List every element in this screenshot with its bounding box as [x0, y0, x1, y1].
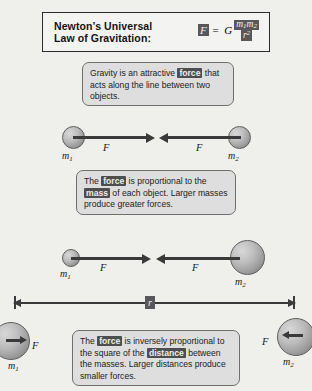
header-box: Newton’s Universal Law of Gravitation: F… — [42, 12, 270, 52]
mass-term-mass: mass — [84, 188, 110, 198]
formula-force-symbol: F — [198, 24, 209, 36]
force-label-left-equal: F — [103, 142, 109, 153]
attraction-term-force: force — [177, 68, 202, 78]
force-label-right-distance: F — [262, 336, 268, 347]
mass2-label-unequal: m2 — [235, 276, 246, 289]
force-label-right-unequal: F — [192, 262, 198, 273]
formula-constant: G — [224, 24, 232, 36]
statement-mass: The force is proportional to the mass of… — [76, 170, 236, 215]
mass-term-force: force — [101, 176, 126, 186]
gravitation-formula: F = G m1m2 r2 — [198, 20, 259, 41]
formula-m2-sub: 2 — [253, 22, 257, 30]
formula-denominator: r2 — [241, 30, 252, 41]
distance-term-distance: distance — [147, 348, 186, 358]
mass1-label-unequal: m1 — [60, 268, 71, 281]
mass2-label-equal: m2 — [228, 150, 239, 163]
page-title: Newton’s Universal Law of Gravitation: — [54, 20, 152, 45]
formula-r-sup: 2 — [247, 29, 251, 37]
force-arrow-left-unequal — [163, 257, 240, 260]
force-label-left-distance: F — [32, 340, 38, 351]
force-arrow-left-distance — [288, 334, 303, 337]
gravitation-figure: Newton’s Universal Law of Gravitation: F… — [0, 0, 312, 391]
formula-equals: = — [212, 24, 219, 36]
formula-m1: m — [236, 19, 243, 29]
mass1-label-equal: m1 — [62, 150, 73, 163]
statement-attraction: Gravity is an attractive force that acts… — [82, 62, 234, 106]
mass-text-part2: is proportional to the — [126, 176, 206, 186]
formula-denominator-wrap: r2 — [234, 30, 259, 41]
force-arrow-left-equal — [166, 136, 241, 139]
distance-label-r: r — [145, 296, 155, 309]
statement-distance: The force is inversely proportional to t… — [72, 330, 240, 386]
mass-text-part1: The — [84, 176, 101, 186]
distance-text-part1: The — [80, 336, 97, 346]
mass2-label-distance: m2 — [283, 356, 294, 369]
distance-term-force: force — [97, 336, 122, 346]
formula-fraction: m1m2 r2 — [234, 20, 259, 41]
force-arrow-right-distance — [6, 339, 21, 342]
force-arrow-right-equal — [73, 136, 148, 139]
force-arrow-right-unequal — [71, 257, 144, 260]
mass1-label-distance: m1 — [8, 360, 19, 373]
force-label-left-unequal: F — [100, 262, 106, 273]
force-label-right-equal: F — [196, 142, 202, 153]
attraction-text-part1: Gravity is an attractive — [90, 68, 177, 78]
